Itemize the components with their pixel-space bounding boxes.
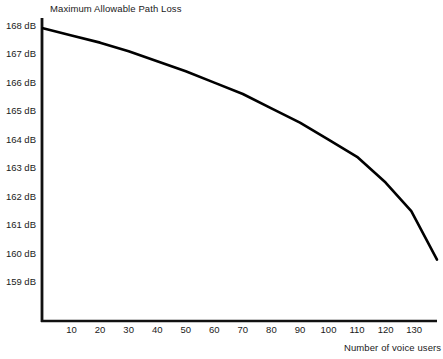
plot-area [0,0,443,359]
x-tick-label: 70 [230,324,256,335]
y-tick-label: 162 dB [0,191,36,202]
y-tick-label: 168 dB [0,20,36,31]
x-tick-label: 120 [373,324,399,335]
x-tick-label: 20 [87,324,113,335]
chart-figure: Maximum Allowable Path Loss Number of vo… [0,0,443,359]
y-tick-label: 165 dB [0,105,36,116]
y-tick-label: 164 dB [0,134,36,145]
x-tick-label: 10 [59,324,85,335]
y-tick-label: 160 dB [0,248,36,259]
x-tick-label: 60 [201,324,227,335]
x-tick-label: 100 [316,324,342,335]
x-tick-label: 90 [287,324,313,335]
x-tick-label: 40 [144,324,170,335]
x-tick-label: 80 [258,324,284,335]
data-series-line [43,28,437,259]
x-tick-label: 130 [401,324,427,335]
y-tick-label: 161 dB [0,219,36,230]
y-tick-label: 159 dB [0,276,36,287]
x-tick-label: 30 [116,324,142,335]
x-tick-label: 50 [173,324,199,335]
y-tick-label: 166 dB [0,77,36,88]
y-tick-label: 167 dB [0,48,36,59]
x-tick-label: 110 [344,324,370,335]
y-tick-label: 163 dB [0,162,36,173]
